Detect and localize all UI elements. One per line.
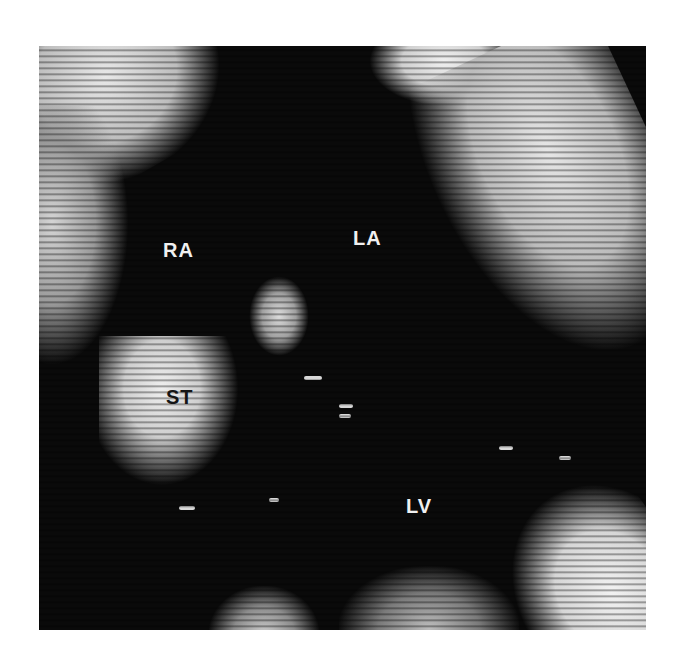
tissue-left-wall [39,106,129,366]
label-septum: ST [166,387,194,407]
tissue-valve [249,276,309,356]
echo-speck [339,414,351,418]
echo-speck [499,446,513,450]
echo-speck [179,506,195,510]
label-right-atrium: RA [163,240,194,260]
echo-speck [339,404,353,408]
tissue-bottom-left [209,586,319,630]
echo-speck [304,376,322,380]
echo-speck [269,498,279,502]
tissue-bottom-center [339,566,519,630]
echo-speck [559,456,571,460]
label-left-ventricle: LV [406,496,432,516]
tissue-septum [99,336,239,486]
tissue-top-right [390,46,646,397]
label-left-atrium: LA [353,228,382,248]
echocardiogram-image [39,46,646,630]
